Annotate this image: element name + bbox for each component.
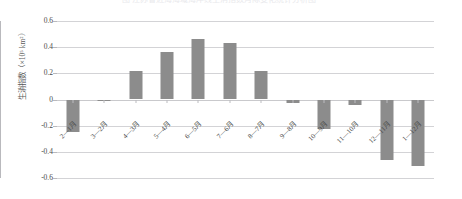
- x-tick-label: 5—4月: [152, 120, 173, 141]
- x-label-slot: 10—9月: [308, 120, 339, 190]
- bar: [223, 43, 236, 99]
- bar: [160, 52, 173, 100]
- bar: [255, 71, 268, 99]
- x-label-slot: 8—7月: [246, 120, 277, 190]
- y-tick-label: 0.4: [7, 43, 53, 51]
- x-axis-tick-labels: 2—1月3—2月4—3月5—4月6—5月7—6月8—7月9—8月10—9月11—…: [57, 120, 434, 190]
- x-tick-mark: [72, 100, 73, 103]
- y-axis-tick-labels: 0.60.40.20-0.2-0.4-0.6: [3, 21, 53, 178]
- x-label-slot: 12—11月: [371, 120, 402, 190]
- x-label-slot: 3—2月: [88, 120, 119, 190]
- x-tick-label: 3—2月: [89, 120, 110, 141]
- x-label-slot: 2—1月: [57, 120, 88, 190]
- x-tick-label: 9—8月: [278, 120, 299, 141]
- x-label-slot: 6—5月: [183, 120, 214, 190]
- x-tick-mark: [166, 100, 167, 103]
- x-tick-mark: [292, 100, 293, 103]
- bar: [192, 39, 205, 100]
- x-tick-mark: [355, 100, 356, 103]
- x-tick-label: 4—3月: [121, 120, 142, 141]
- x-tick-label: 2—1月: [58, 120, 79, 141]
- cropped-title-strip: 图 江苏省近海海域海岸线生消指数月际变化统计分析图: [64, 0, 374, 6]
- y-tick-label: -0.6: [7, 174, 53, 182]
- x-label-slot: 5—4月: [151, 120, 182, 190]
- x-tick-label: 7—6月: [215, 120, 236, 141]
- x-tick-label: 10—9月: [307, 120, 330, 143]
- x-tick-mark: [418, 100, 419, 103]
- x-tick-mark: [386, 100, 387, 103]
- x-tick-mark: [104, 100, 105, 103]
- y-tick-label: -0.4: [7, 148, 53, 156]
- x-tick-mark: [229, 100, 230, 103]
- y-tick-label: 0.2: [7, 69, 53, 77]
- x-label-slot: 1—12月: [403, 120, 434, 190]
- x-label-slot: 11—10月: [340, 120, 371, 190]
- y-axis-line: [0, 21, 1, 178]
- x-tick-mark: [135, 100, 136, 103]
- x-tick-label: 8—7月: [246, 120, 267, 141]
- y-tick-label: -0.2: [7, 122, 53, 130]
- x-tick-mark: [324, 100, 325, 103]
- x-tick-mark: [261, 100, 262, 103]
- x-tick-mark: [198, 100, 199, 103]
- x-label-slot: 4—3月: [120, 120, 151, 190]
- x-label-slot: 9—8月: [277, 120, 308, 190]
- x-label-slot: 7—6月: [214, 120, 245, 190]
- x-tick-label: 6—5月: [184, 120, 205, 141]
- x-tick-label: 1—12月: [401, 120, 424, 143]
- cropped-title-text: 图 江苏省近海海域海岸线生消指数月际变化统计分析图: [64, 0, 374, 4]
- y-tick-label: 0: [7, 96, 53, 104]
- x-tick-label: 11—10月: [336, 120, 361, 145]
- bar: [129, 71, 142, 99]
- chart-figure: 图 江苏省近海海域海岸线生消指数月际变化统计分析图 生消指数（×10⁵ km²）…: [0, 0, 462, 199]
- x-tick-label: 12—11月: [367, 120, 392, 145]
- y-tick-label: 0.6: [7, 17, 53, 25]
